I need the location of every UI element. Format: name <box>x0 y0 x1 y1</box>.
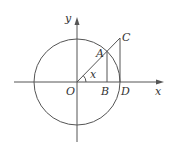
x-axis-arrow-icon <box>156 80 164 85</box>
unit-circle-diagram: y x O A B C D x <box>0 0 171 158</box>
point-O-label: O <box>66 85 75 98</box>
angle-x-label: x <box>90 68 97 81</box>
point-D-label: D <box>120 85 130 98</box>
point-C-label: C <box>122 31 131 44</box>
point-A-label: A <box>95 47 104 60</box>
point-B-label: B <box>100 85 109 98</box>
y-axis-arrow-icon <box>75 17 80 25</box>
y-axis-label: y <box>64 12 72 25</box>
x-axis-label: x <box>155 85 162 98</box>
angle-arc <box>83 76 86 82</box>
